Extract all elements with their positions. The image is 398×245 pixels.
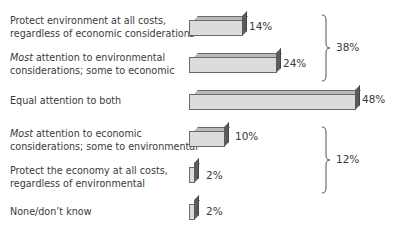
- category-label-protect-environment: Protect environment at all costs, regard…: [10, 14, 195, 40]
- right-brace-icon: [320, 126, 332, 194]
- brace-label-12: 12%: [336, 153, 359, 165]
- value-label-none-dont-know: 2%: [206, 205, 223, 217]
- category-label-protect-economy: Protect the economy at all costs, regard…: [10, 164, 168, 190]
- bar-equal-attention: [189, 90, 361, 110]
- brace-label-38: 38%: [336, 41, 359, 53]
- category-label-equal-attention: Equal attention to both: [10, 94, 121, 107]
- category-label-most-economic: Most attention to economic consideration…: [10, 127, 198, 153]
- value-label-most-environmental: 24%: [283, 57, 306, 69]
- category-label-none-dont-know: None/don’t know: [10, 205, 92, 218]
- value-label-equal-attention: 48%: [362, 93, 385, 105]
- value-label-most-economic: 10%: [235, 130, 258, 142]
- bar-protect-environment: [189, 16, 248, 36]
- value-label-protect-economy: 2%: [206, 169, 223, 181]
- bar-protect-economy: [189, 163, 200, 183]
- brace-environment-group: 38%: [320, 14, 380, 82]
- category-label-most-environmental: Most attention to environmental consider…: [10, 51, 175, 77]
- bar-most-environmental: [189, 53, 282, 73]
- bar-none-dont-know: [189, 200, 200, 220]
- bar-most-economic: [189, 127, 230, 147]
- right-brace-icon: [320, 14, 332, 82]
- brace-economy-group: 12%: [320, 126, 380, 194]
- value-label-protect-environment: 14%: [249, 20, 272, 32]
